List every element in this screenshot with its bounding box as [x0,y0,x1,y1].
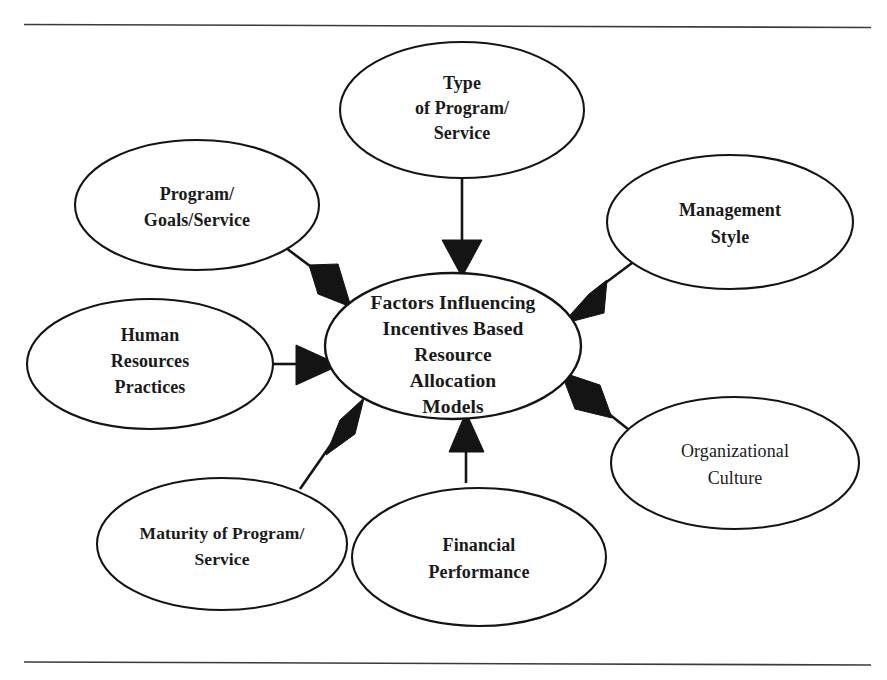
node-label-line-2: Style [711,227,750,247]
arrow-management-style-to-center [562,263,632,324]
node-label-line-3: Service [434,123,491,143]
figure-root: Type of Program/ Service Program/ Goals/… [0,0,887,680]
node-label-line-1: Type [443,73,481,93]
connector-line [300,443,332,489]
center-label-line-2: Incentives Based [383,318,524,339]
arrow-type-of-program-service-to-center [442,177,482,277]
node-ellipse-shape [607,155,853,289]
node-center-factors-influencing[interactable]: Factors Influencing Incentives Based Res… [325,273,581,419]
arrow-financial-performance-to-center [449,412,484,483]
node-label-line-1: Financial [443,535,516,555]
node-label-line-2: Resources [111,351,190,371]
node-ellipse-shape [75,140,319,270]
node-label-line-1: Management [679,200,781,220]
node-label-line-2: of Program/ [415,98,510,118]
node-label-line-2: Goals/Service [144,210,250,230]
node-label-line-2: Performance [428,562,529,582]
node-program-goals-service[interactable]: Program/ Goals/Service [75,140,319,270]
node-type-of-program-service[interactable]: Type of Program/ Service [340,42,584,178]
node-label-line-1: Maturity of Program/ [140,523,306,543]
top-horizontal-rule [24,25,871,28]
arrow-program-goals-service-to-center [282,245,351,307]
node-financial-performance[interactable]: Financial Performance [352,488,606,626]
arrowhead [442,240,482,277]
center-label-line-4: Allocation [410,370,497,391]
center-label-line-5: Models [422,396,484,417]
node-label-line-1: Human [121,325,180,345]
node-label-line-1: Program/ [160,184,235,204]
bottom-horizontal-rule [24,662,871,665]
node-ellipse-shape [352,488,606,626]
node-ellipse-shape [611,397,859,529]
center-label-line-1: Factors Influencing [371,292,536,313]
arrowhead [326,398,364,455]
node-label-line-2: Service [194,549,249,569]
node-label-line-1: Organizational [681,441,789,461]
node-management-style[interactable]: Management Style [607,155,853,289]
arrowhead [309,264,351,307]
node-human-resources-practices[interactable]: Human Resources Practices [27,299,273,429]
node-label-line-2: Culture [708,468,763,488]
node-maturity-of-program-service[interactable]: Maturity of Program/ Service [97,478,347,610]
node-label-line-3: Practices [115,377,186,397]
node-organizational-culture[interactable]: Organizational Culture [611,397,859,529]
influence-diagram: Type of Program/ Service Program/ Goals/… [0,0,887,680]
node-ellipse-shape [97,478,347,610]
center-label-line-3: Resource [414,344,492,365]
arrow-maturity-of-program-service-to-center [300,398,364,489]
